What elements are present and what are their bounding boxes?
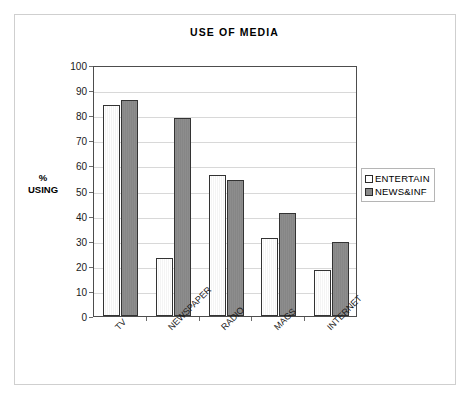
bar-radio-newsinf <box>227 180 244 316</box>
bar-radio-entertain <box>209 175 226 316</box>
bar-internet-entertain <box>314 270 331 316</box>
chart-page: USE OF MEDIA % USING 0102030405060708090… <box>0 0 469 402</box>
y-axis-title-line-2: USING <box>12 184 74 196</box>
bars-layer <box>94 67 356 316</box>
chart-legend: ENTERTAINNEWS&INF <box>361 168 435 202</box>
legend-item-newsinf: NEWS&INF <box>365 185 430 198</box>
legend-label: NEWS&INF <box>375 186 427 197</box>
bar-internet-newsinf <box>332 242 349 316</box>
legend-item-entertain: ENTERTAIN <box>365 172 430 185</box>
bar-mags-newsinf <box>279 213 296 316</box>
bar-newspaper-entertain <box>156 258 173 316</box>
bar-mags-entertain <box>261 238 278 316</box>
y-axis-title: % USING <box>12 172 74 196</box>
legend-swatch-newsinf <box>365 188 373 196</box>
plot-area <box>93 66 357 317</box>
y-axis-title-line-1: % <box>12 172 74 184</box>
chart-title: USE OF MEDIA <box>0 26 469 38</box>
bar-tv-newsinf <box>121 100 138 316</box>
bar-newspaper-newsinf <box>174 118 191 316</box>
legend-label: ENTERTAIN <box>375 173 430 184</box>
bar-tv-entertain <box>103 105 120 316</box>
legend-swatch-entertain <box>365 175 373 183</box>
